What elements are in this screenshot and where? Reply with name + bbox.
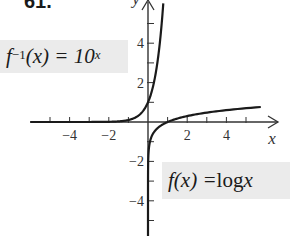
axes: −4−224−4−224xy [30, 0, 278, 236]
inverse-function-label: f−1(x) = 10x [0, 40, 128, 73]
x-tick-label: −4 [62, 128, 77, 143]
x-tick-label: −2 [101, 128, 116, 143]
log-arg: (x) = [174, 168, 217, 193]
x-tick-label: 4 [223, 128, 230, 143]
log-var: x [243, 168, 252, 193]
y-tick-label: 4 [137, 36, 144, 51]
y-tick-label: 2 [137, 76, 144, 91]
x-tick-label: 2 [184, 128, 191, 143]
inverse-power: x [95, 47, 101, 63]
y-tick-label: −2 [129, 154, 144, 169]
inverse-exponent: −1 [12, 47, 26, 63]
inverse-arg: (x) = 10 [26, 44, 95, 69]
y-tick-label: −4 [129, 194, 144, 209]
y-axis-label: y [130, 0, 140, 8]
plot-area: −4−224−4−224xy [0, 0, 294, 236]
log-function-label: f(x) = log x [162, 162, 290, 199]
x-axis-label: x [267, 129, 276, 148]
graph-figure: −4−224−4−224xy 61. f−1(x) = 10x f(x) = l… [0, 0, 294, 236]
log-word: log [217, 168, 244, 193]
problem-number: 61. [24, 0, 52, 13]
